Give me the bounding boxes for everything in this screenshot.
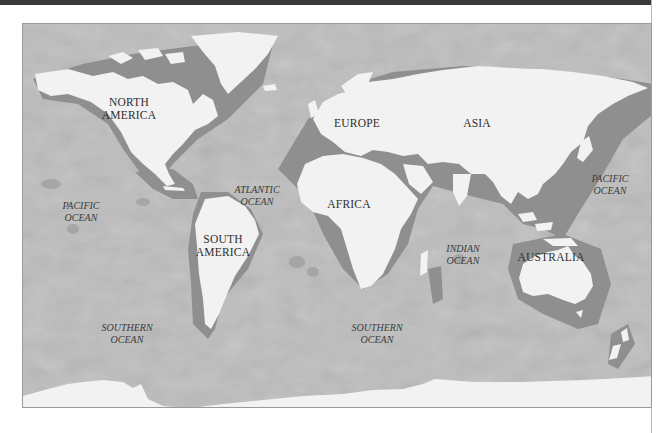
world-map: NORTH AMERICA SOUTH AMERICA EUROPE ASIA … (22, 23, 652, 408)
label-line: ASIA (463, 117, 491, 130)
label-line: OCEAN (591, 185, 628, 197)
label-north-america: NORTH AMERICA (102, 96, 156, 122)
label-line: PACIFIC (591, 173, 628, 185)
label-line: AUSTRALIA (518, 251, 585, 264)
label-line: SOUTH (196, 233, 250, 246)
label-indian-ocean: INDIAN OCEAN (446, 243, 479, 267)
world-map-graphic (23, 24, 652, 408)
label-line: AMERICA (196, 246, 250, 259)
label-line: AMERICA (102, 109, 156, 122)
label-line: OCEAN (446, 255, 479, 267)
label-pacific-ocean-west: PACIFIC OCEAN (62, 200, 99, 224)
label-africa: AFRICA (327, 198, 370, 211)
label-line: AFRICA (327, 198, 370, 211)
label-line: OCEAN (234, 196, 279, 208)
label-southern-ocean-west: SOUTHERN OCEAN (101, 322, 152, 346)
label-asia: ASIA (463, 117, 491, 130)
label-line: EUROPE (334, 117, 380, 130)
label-pacific-ocean-east: PACIFIC OCEAN (591, 173, 628, 197)
label-australia: AUSTRALIA (518, 251, 585, 264)
label-south-america: SOUTH AMERICA (196, 233, 250, 259)
label-line: NORTH (102, 96, 156, 109)
top-bar (0, 0, 651, 5)
label-southern-ocean-east: SOUTHERN OCEAN (351, 322, 402, 346)
label-line: INDIAN (446, 243, 479, 255)
label-europe: EUROPE (334, 117, 380, 130)
label-line: OCEAN (101, 334, 152, 346)
label-line: SOUTHERN (101, 322, 152, 334)
label-line: ATLANTIC (234, 184, 279, 196)
label-atlantic-ocean: ATLANTIC OCEAN (234, 184, 279, 208)
label-line: SOUTHERN (351, 322, 402, 334)
label-line: OCEAN (62, 212, 99, 224)
label-line: PACIFIC (62, 200, 99, 212)
label-line: OCEAN (351, 334, 402, 346)
